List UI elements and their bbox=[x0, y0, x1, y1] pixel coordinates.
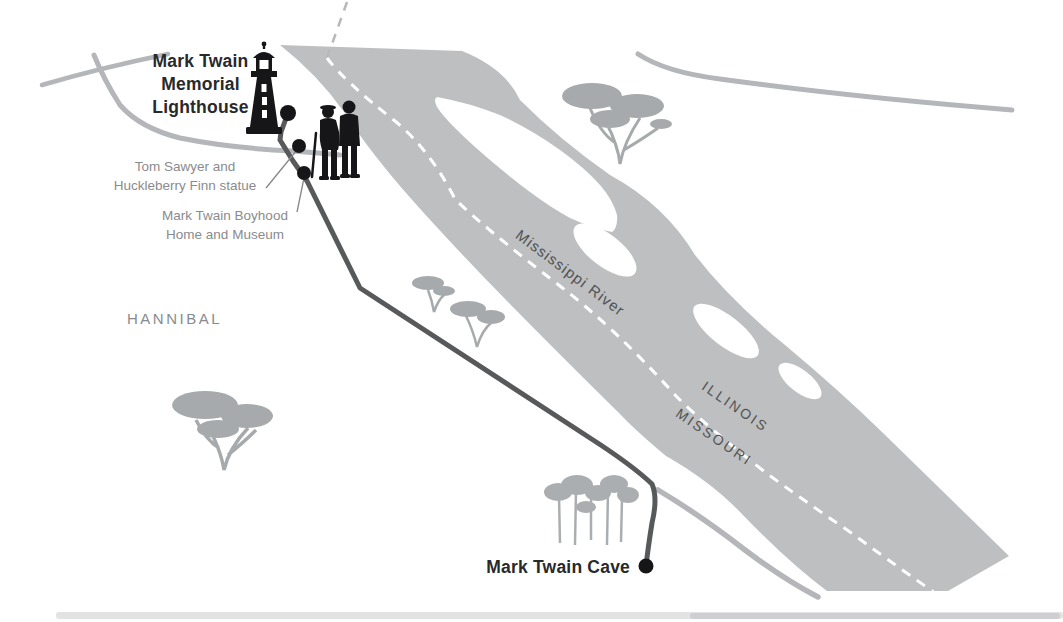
statue-label-line2: Huckleberry Finn statue bbox=[85, 177, 285, 196]
river-shape bbox=[280, 45, 1009, 591]
lighthouse-label-line2: Memorial bbox=[128, 73, 273, 96]
boyhood-home-label: Mark Twain Boyhood Home and Museum bbox=[140, 207, 310, 244]
lighthouse-label: Mark Twain Memorial Lighthouse bbox=[128, 50, 273, 118]
poi-dot bbox=[297, 166, 311, 180]
boyhood-home-label-line1: Mark Twain Boyhood bbox=[140, 207, 310, 226]
city-label: HANNIBAL bbox=[127, 310, 222, 327]
poi-dot bbox=[292, 139, 306, 153]
poi-dot bbox=[639, 559, 654, 574]
road-line bbox=[638, 54, 1012, 110]
map-canvas: Mark Twain Memorial Lighthouse Tom Sawye… bbox=[0, 0, 1063, 622]
lighthouse-label-line3: Lighthouse bbox=[128, 96, 273, 119]
statue-label-line1: Tom Sawyer and bbox=[85, 158, 285, 177]
statue-label: Tom Sawyer and Huckleberry Finn statue bbox=[85, 158, 285, 195]
page-edge-strip bbox=[56, 612, 1063, 619]
lighthouse-label-line1: Mark Twain bbox=[128, 50, 273, 73]
pine-grove-icon bbox=[544, 475, 639, 545]
cave-label: Mark Twain Cave bbox=[455, 556, 630, 579]
poi-dot bbox=[280, 105, 296, 121]
boyhood-home-label-line2: Home and Museum bbox=[140, 226, 310, 245]
